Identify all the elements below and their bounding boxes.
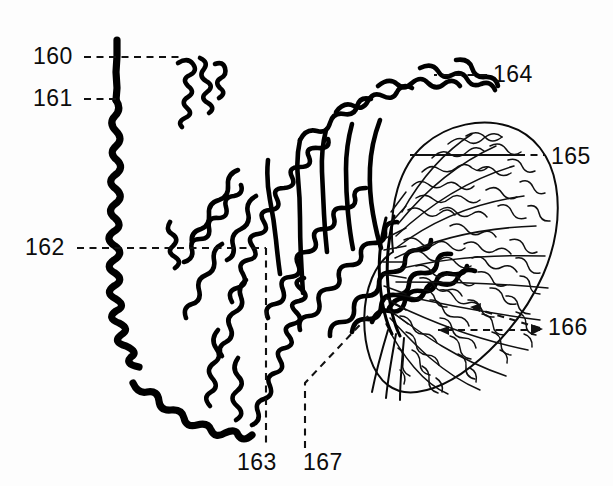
fan-converge-strand-3: [346, 124, 353, 249]
ref-label-160: 160: [33, 43, 73, 69]
ref-label-166: 166: [548, 314, 588, 340]
arrowhead-166-lower: [438, 326, 449, 335]
fan-left-dangle-1: [192, 170, 238, 243]
fan-left-dangle-2: [227, 196, 256, 260]
fan-lower-left-loop-2: [233, 358, 242, 420]
fiber-ascending-branch: [252, 278, 306, 425]
fan-lower-left-loop: [206, 330, 219, 406]
ref-label-164: 164: [493, 61, 533, 87]
fan-loop-outer-left: [230, 139, 329, 302]
fiber-small-left-tail: [168, 222, 179, 268]
ref-label-167: 167: [303, 449, 343, 475]
free-loop-fragment: [178, 58, 226, 127]
fiber-wavy-segment: [109, 100, 139, 367]
bundle-separator-2: [395, 226, 536, 258]
free-loop-far-right: [215, 63, 226, 98]
leader-line-167: [305, 312, 372, 448]
ref-label-162: 162: [25, 234, 65, 260]
fan-crown-loop-3: [378, 79, 460, 87]
free-loop-left: [178, 60, 195, 127]
ref-label-161: 161: [33, 85, 73, 111]
condensed-texture-sector-upper: [408, 133, 550, 237]
ref-label-163: 163: [237, 449, 277, 475]
fiber-straight-segment: [116, 40, 117, 100]
figure-illustration: 160 161 162 163 164 165 166 167: [0, 0, 613, 486]
condensed-texture-sector-lower: [398, 296, 536, 393]
figure-container: 160 161 162 163 164 165 166 167: [0, 0, 613, 486]
bundle-separator-11: [402, 134, 472, 212]
fan-converge-strand-4: [370, 120, 381, 248]
fan-crown-loop-1: [300, 98, 371, 140]
ref-label-165: 165: [551, 143, 591, 169]
free-loop-right: [200, 58, 212, 113]
fan-converge-strand-5: [267, 160, 280, 274]
arrowhead-166-junction: [531, 324, 543, 335]
fan-crown-loop-2: [336, 86, 412, 112]
loop-fan-group: [185, 60, 498, 420]
